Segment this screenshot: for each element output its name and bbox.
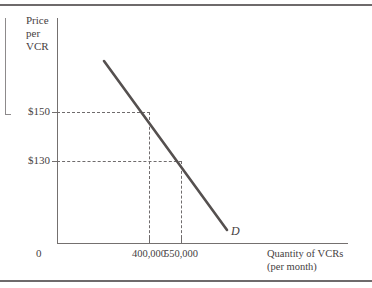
y-axis-label-line-2: per [26, 27, 49, 40]
x-tick-label-550000: 550,000 [151, 247, 211, 260]
y-axis-label: Price per VCR [26, 14, 49, 53]
y-tick-label-130: $130 [8, 154, 50, 167]
y-axis-label-line-3: VCR [26, 40, 49, 53]
x-axis-label: Quantity of VCRs (per month) [267, 247, 343, 273]
y-axis-label-line-1: Price [26, 14, 49, 27]
x-axis-label-line-1: Quantity of VCRs [267, 247, 343, 260]
demand-curve-figure: Price per VCR $150 $130 400,000 550,000 … [0, 0, 372, 288]
demand-curve-label: D [231, 225, 240, 238]
y-tick-label-150: $150 [8, 105, 50, 118]
demand-curve-layer [0, 0, 372, 288]
x-axis-label-line-2: (per month) [267, 260, 343, 273]
demand-curve-line [104, 61, 227, 230]
origin-label: 0 [36, 247, 42, 260]
